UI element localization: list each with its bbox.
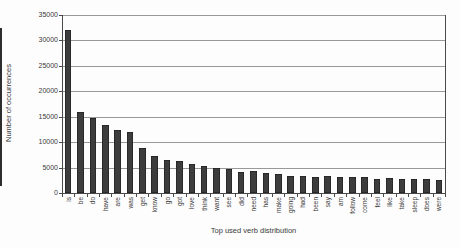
bar-going [287,176,294,193]
x-tick-mark [321,194,322,197]
gridline-15000 [62,117,445,118]
x-tick-mark [420,194,421,197]
y-tick-mark [59,66,62,67]
x-tick-mark [247,194,248,197]
x-tick-label-am: am [336,197,345,206]
y-tick-mark [59,91,62,92]
x-tick-mark [210,194,211,197]
x-tick-label-has: has [261,197,270,207]
x-tick-mark [284,194,285,197]
bar-think [201,166,208,193]
y-tick-label: 15000 [28,113,58,121]
bar-feel [374,179,381,193]
x-tick-mark [99,194,100,197]
x-tick-label-did: did [237,197,246,206]
y-tick-mark [59,142,62,143]
x-tick-label-feel: feel [373,197,382,207]
bar-need [250,171,257,193]
x-tick-mark [62,194,63,197]
gridline-25000 [62,66,445,67]
x-axis-line [62,193,446,194]
bar-was [127,132,134,194]
x-tick-label-do: do [88,197,97,204]
x-tick-label-take: take [397,197,406,209]
x-tick-mark [346,194,347,197]
x-tick-mark [371,194,372,197]
y-tick-mark [59,117,62,118]
bar-take [399,179,406,193]
bar-is [65,30,72,193]
x-tick-label-got: got [175,197,184,206]
y-tick-label: 0 [28,189,58,197]
x-tick-label-are: are [113,197,122,206]
x-tick-mark [173,194,174,197]
bar-go [164,160,171,193]
x-tick-label-get: get [138,197,147,206]
y-tick-label: 10000 [28,138,58,146]
x-tick-mark [161,194,162,197]
bar-have [102,125,109,193]
x-tick-label-want: want [212,197,221,211]
x-tick-label-had: had [298,197,307,208]
bar-were [436,180,443,193]
y-tick-label: 20000 [28,87,58,95]
x-tick-label-make: make [274,197,283,213]
x-tick-label-need: need [249,197,258,211]
bar-are [114,130,121,193]
x-tick-mark [124,194,125,197]
x-tick-label-go: go [163,197,172,204]
bar-has [263,173,270,193]
bar-say [324,176,331,193]
x-tick-label-have: have [101,197,110,211]
y-tick-mark [59,40,62,41]
bar-did [238,172,245,193]
bar-be [77,112,84,193]
bar-know [151,156,158,193]
bar-sleep [411,179,418,193]
x-tick-label-love: love [187,197,196,209]
bar-love [189,164,196,193]
x-tick-label-does: does [422,197,431,211]
x-tick-label-sleep: sleep [410,197,419,213]
y-axis-title: Number of occurrences [4,64,13,142]
x-tick-mark [111,194,112,197]
x-tick-label-been: been [311,197,320,211]
x-tick-label-were: were [434,197,443,211]
scan-edge-artifact-line [0,28,2,186]
y-tick-label: 5000 [28,164,58,172]
bar-chart-figure: Number of occurrences Top used verb dist… [0,0,460,248]
x-tick-label-come: come [360,197,369,213]
x-tick-label-be: be [76,197,85,204]
x-tick-mark [198,194,199,197]
bar-follow [349,177,356,193]
x-tick-label-know: know [150,197,159,212]
x-tick-mark [136,194,137,197]
x-tick-mark [148,194,149,197]
bar-come [361,177,368,193]
bar-get [139,148,146,193]
y-tick-mark [59,168,62,169]
x-tick-mark [309,194,310,197]
bar-see [226,169,233,193]
y-tick-mark [59,15,62,16]
bar-like [386,178,393,193]
bar-does [423,179,430,193]
bar-am [337,177,344,193]
x-tick-mark [272,194,273,197]
x-tick-label-follow: follow [348,197,357,214]
gridline-30000 [62,40,445,41]
bar-got [176,161,183,194]
y-tick-label: 30000 [28,36,58,44]
x-tick-label-like: like [385,197,394,207]
bar-want [213,168,220,193]
x-axis-title: Top used verb distribution [62,226,445,235]
gridline-35000 [62,15,445,16]
x-tick-label-see: see [224,197,233,207]
x-tick-label-was: was [126,197,135,209]
y-tick-label: 35000 [28,11,58,19]
x-tick-mark [235,194,236,197]
x-tick-label-is: is [64,197,73,202]
x-tick-label-say: say [323,197,332,207]
x-tick-mark [334,194,335,197]
y-tick-label: 25000 [28,62,58,70]
